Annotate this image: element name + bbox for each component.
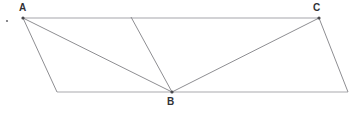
geometry-figure: A C B: [0, 0, 356, 114]
figure-canvas: [0, 0, 356, 114]
diagonal-A-to-B: [23, 18, 172, 92]
diagonal-B-to-C: [172, 18, 319, 92]
left-side-A-to-D: [23, 18, 57, 92]
right-side-C-to-E: [319, 18, 348, 92]
vertex-dot-b: [170, 90, 173, 93]
cevian-F-to-B: [131, 17, 172, 92]
vertex-label-c: C: [313, 3, 320, 13]
stray-dot: [6, 20, 8, 22]
vertex-dot-c: [317, 16, 320, 19]
vertex-label-a: A: [19, 3, 26, 13]
vertex-dot-a: [21, 16, 24, 19]
vertex-label-b: B: [167, 97, 174, 107]
